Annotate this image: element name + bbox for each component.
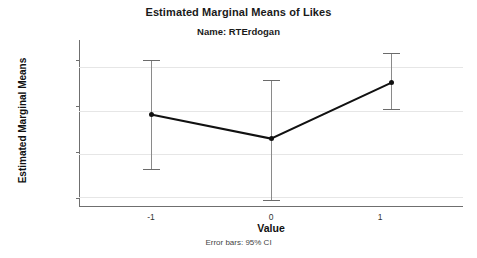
plot-area	[79, 40, 463, 207]
series-line	[79, 40, 463, 207]
y-axis-label: Estimated Marginal Means	[17, 36, 28, 206]
data-point-one	[389, 80, 394, 85]
chart-title: Estimated Marginal Means of Likes	[0, 6, 477, 18]
data-point-minus1	[149, 112, 154, 117]
chart-subtitle: Name: RTErdogan	[0, 26, 477, 37]
x-tick-label-zero: 0	[251, 212, 291, 222]
chart-footnote: Error bars: 95% CI	[0, 238, 477, 247]
x-tick-label-minus1: -1	[131, 212, 171, 222]
chart-figure: Estimated Marginal Means of Likes Name: …	[0, 0, 477, 258]
x-axis-label: Value	[79, 222, 463, 234]
x-tick-label-one: 1	[360, 212, 400, 222]
data-point-zero	[269, 136, 274, 141]
